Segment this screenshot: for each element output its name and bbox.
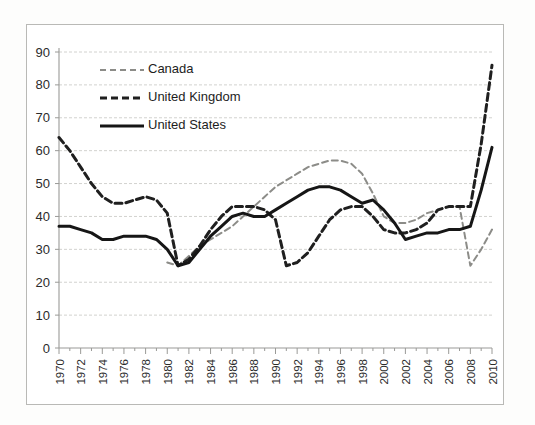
x-axis-label: 1988 [248,359,260,385]
legend-label-united-states: United States [148,117,227,132]
y-axis-label: 30 [36,242,50,257]
y-axis-label: 50 [36,176,50,191]
x-axis-label: 1976 [118,359,130,385]
legend-label-united-kingdom: United Kingdom [148,89,241,104]
y-axis-label: 20 [36,275,50,290]
y-axis-label: 90 [36,45,50,60]
x-axis-label: 1986 [227,359,239,385]
x-axis-label: 1972 [75,359,87,385]
chart-canvas: 0102030405060708090197019721974197619781… [0,0,535,425]
x-axis-label: 2006 [443,359,455,385]
x-axis-label: 1982 [183,359,195,385]
gridlines: 0102030405060708090 [36,45,492,356]
x-axis-label: 1980 [162,359,174,385]
y-axis-label: 0 [43,341,50,356]
series-line-united-states [59,147,492,265]
x-axis-label: 1970 [54,359,66,385]
x-axis-label: 2002 [400,359,412,385]
line-chart: 0102030405060708090197019721974197619781… [0,0,535,425]
y-axis-label: 70 [36,110,50,125]
series-line-canada [167,161,492,266]
y-axis-label: 80 [36,77,50,92]
x-axis-label: 2000 [378,359,390,385]
y-axis-label: 60 [36,143,50,158]
x-axis-label: 1992 [292,359,304,385]
series-group [59,65,492,266]
x-axis-label: 1974 [97,358,109,384]
legend: CanadaUnited KingdomUnited States [100,61,241,132]
x-axis-label: 1978 [140,359,152,385]
x-axis-ticks: 1970197219741976197819801982198419861988… [54,348,499,385]
x-axis-label: 2010 [487,359,499,385]
x-axis-label: 1994 [313,358,325,384]
x-axis-label: 2004 [422,358,434,384]
y-axis-label: 10 [36,308,50,323]
x-axis-label: 1990 [270,359,282,385]
x-axis-label: 1998 [357,359,369,385]
y-axis-label: 40 [36,209,50,224]
x-axis-label: 2008 [465,359,477,385]
x-axis-label: 1984 [205,358,217,384]
chart-screenshot: 0102030405060708090197019721974197619781… [0,0,535,425]
legend-label-canada: Canada [148,61,194,76]
x-axis-label: 1996 [335,359,347,385]
